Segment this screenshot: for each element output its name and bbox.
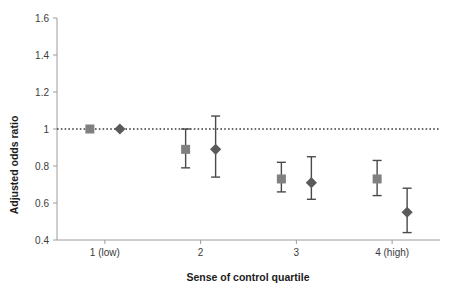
chart-container: 0.40.60.811.21.41.6 1 (low)234 (high) Se… [0,0,452,293]
y-axis-title: Adjusted odds ratio [8,116,20,215]
x-tick-label: 2 [198,247,204,258]
square-marker[interactable] [85,125,94,134]
x-axis-title: Sense of control quartile [186,271,309,283]
y-tick-label: 0.8 [35,161,49,172]
x-tick-label: 1 (low) [90,247,120,258]
square-marker[interactable] [181,145,190,154]
y-tick-label: 1.6 [35,13,49,24]
y-tick-label: 1.2 [35,87,49,98]
y-tick-label: 1 [43,124,49,135]
odds-ratio-forest-plot: 0.40.60.811.21.41.6 1 (low)234 (high) Se… [0,0,452,293]
data-point[interactable] [85,125,94,134]
y-tick-label: 0.4 [35,235,49,246]
x-tick-label: 3 [294,247,300,258]
y-tick-label: 0.6 [35,198,49,209]
x-tick-label: 4 (high) [375,247,409,258]
square-marker[interactable] [373,174,382,183]
y-tick-label: 1.4 [35,50,49,61]
square-marker[interactable] [277,174,286,183]
